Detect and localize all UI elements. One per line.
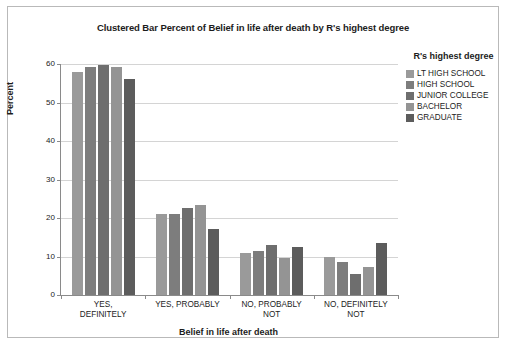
legend-swatch-icon [406,92,414,100]
bar-group: NO, PROBABLY NOT [230,64,314,295]
bar[interactable] [337,262,348,295]
chart-frame: Clustered Bar Percent of Belief in life … [7,6,499,338]
bar[interactable] [208,229,219,295]
legend-item-label: LT HIGH SCHOOL [417,69,485,78]
x-axis-label: Belief in life after death [60,327,397,337]
bar[interactable] [240,253,251,295]
bar[interactable] [72,72,83,295]
legend: R's highest degree LT HIGH SCHOOLHIGH SC… [406,51,509,123]
bar-group-bars [230,64,314,295]
legend-swatch-icon [406,70,414,78]
y-tick-label: 20 [35,213,55,222]
x-tick-label: YES, DEFINITELY [61,300,145,319]
x-tick-mark [230,295,231,299]
legend-swatch-icon [406,81,414,89]
x-tick-label: NO, PROBABLY NOT [230,300,314,319]
bar[interactable] [292,247,303,296]
legend-items: LT HIGH SCHOOLHIGH SCHOOLJUNIOR COLLEGEB… [406,68,509,123]
bar[interactable] [363,267,374,295]
bar-group-bars [314,64,398,295]
bar[interactable] [376,243,387,295]
x-tick-label: NO, DEFINITELY NOT [314,300,398,319]
bar[interactable] [111,67,122,295]
bar[interactable] [124,79,135,295]
y-tick-label: 30 [35,175,55,184]
bar[interactable] [195,205,206,295]
legend-item[interactable]: LT HIGH SCHOOL [406,68,509,79]
bar[interactable] [324,257,335,296]
bar[interactable] [266,245,277,295]
bar[interactable] [85,67,96,295]
legend-item[interactable]: JUNIOR COLLEGE [406,90,509,101]
legend-item-label: HIGH SCHOOL [417,80,474,89]
y-tick-label: 50 [35,98,55,107]
x-tick-mark [314,295,315,299]
legend-item-label: BACHELOR [417,102,462,111]
y-tick-label: 60 [35,59,55,68]
x-tick-mark [145,295,146,299]
bar-group: YES, PROBABLY [145,64,229,295]
bar[interactable] [156,214,167,295]
bar[interactable] [98,65,109,295]
bar[interactable] [253,251,264,295]
legend-title: R's highest degree [406,51,501,62]
bar[interactable] [350,274,361,295]
chart-title: Clustered Bar Percent of Belief in life … [8,22,498,33]
bar-group-bars [145,64,229,295]
legend-item[interactable]: HIGH SCHOOL [406,79,509,90]
bar-group-bars [61,64,145,295]
y-axis-label: Percent [5,82,15,115]
plot-area: 0102030405060YES, DEFINITELYYES, PROBABL… [60,64,398,296]
x-tick-mark [398,295,399,299]
x-tick-label: YES, PROBABLY [145,300,229,310]
bar[interactable] [169,214,180,295]
y-tick-label: 0 [35,290,55,299]
x-tick-mark [61,295,62,299]
legend-item-label: JUNIOR COLLEGE [417,91,488,100]
legend-swatch-icon [406,114,414,122]
legend-item-label: GRADUATE [417,113,462,122]
y-tick-label: 10 [35,252,55,261]
bar-group: NO, DEFINITELY NOT [314,64,398,295]
legend-item[interactable]: GRADUATE [406,112,509,123]
bar[interactable] [182,208,193,295]
bar-group: YES, DEFINITELY [61,64,145,295]
y-tick-label: 40 [35,136,55,145]
legend-item[interactable]: BACHELOR [406,101,509,112]
legend-swatch-icon [406,103,414,111]
bar[interactable] [279,258,290,295]
